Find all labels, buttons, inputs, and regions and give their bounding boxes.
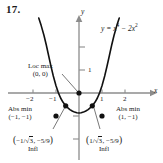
x-tick-label-1: 1 (100, 95, 104, 103)
x-tick-label-2: 2 (123, 95, 127, 103)
infl-left-rest: , −5/9 (33, 137, 49, 145)
abs-min-right-coords: (1, −1) (116, 113, 140, 121)
infl-left-leader-line (53, 108, 65, 129)
y-axis-label: y (81, 8, 84, 16)
point-loc-max (76, 90, 81, 95)
infl-right-title: Infl (86, 145, 122, 153)
figure-container: 17. (0, 0, 163, 163)
infl-left-title: Infl (13, 145, 53, 153)
loc-max-coords: (0, 0) (28, 70, 53, 78)
point-abs-min-right (99, 113, 104, 118)
infl-right-leader-line (94, 108, 100, 129)
abs-min-left-coords: (−1, −1) (8, 113, 32, 121)
annotation-abs-min-right: Abs min (1, −1) (116, 105, 140, 121)
infl-left-close-paren: ) (50, 135, 53, 145)
y-axis (73, 15, 85, 160)
point-infl-right (90, 103, 95, 108)
annotation-abs-min-left: Abs min (−1, −1) (8, 105, 32, 121)
point-abs-min-left (53, 113, 58, 118)
infl-left-numerator: −1/ (16, 137, 25, 145)
annotation-loc-max: Loc max (0, 0) (28, 62, 53, 78)
x-tick-label-neg2: −2 (26, 95, 33, 103)
point-infl-left (63, 103, 68, 108)
infl-right-rest: , −5/9 (102, 137, 118, 145)
equation-exponent-2: 2 (135, 22, 138, 28)
infl-left-coords: (−1/√3, −5/9) (13, 136, 53, 145)
loc-max-title: Loc max (28, 62, 53, 70)
y-tick-label-1: 1 (88, 66, 92, 74)
loc-max-leader-line (62, 74, 78, 92)
equation-mid: − 2x (119, 24, 135, 33)
abs-min-left-title: Abs min (8, 105, 32, 113)
x-axis-label: x (154, 87, 157, 95)
abs-min-right-title: Abs min (116, 105, 140, 113)
equation-lhs: y = x (101, 24, 116, 33)
x-tick-label-neg1: −1 (49, 95, 56, 103)
annotation-infl-left: (−1/√3, −5/9) Infl (13, 136, 53, 153)
infl-right-close-paren: ) (119, 135, 122, 145)
equation-label: y = x4 − 2x2 (101, 21, 138, 33)
infl-right-coords: (1/√3, −5/9) (86, 136, 122, 145)
annotation-infl-right: (1/√3, −5/9) Infl (86, 136, 122, 153)
